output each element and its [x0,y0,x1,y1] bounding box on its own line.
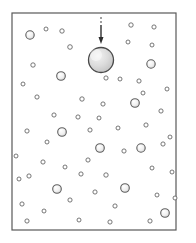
particle [20,202,24,206]
particle [126,40,130,44]
particle [141,91,145,95]
particle [44,27,48,31]
particle [93,190,97,194]
particle [77,218,81,222]
particle [63,165,67,169]
particle [27,174,31,178]
particle [161,142,165,146]
particle [31,63,35,67]
particle [96,144,105,153]
particle [148,219,152,223]
particle [129,23,133,27]
particle [14,154,18,158]
particle [122,149,126,153]
particle [35,95,39,99]
figure-root [0,0,196,243]
particle [137,79,141,83]
particle [155,193,159,197]
particle [80,97,84,101]
particle [137,144,145,152]
particle [25,219,29,223]
particle [161,209,170,218]
particle [52,113,56,117]
particle [104,173,108,177]
particle [131,99,140,108]
particle [101,102,105,106]
particle [17,177,21,181]
particle [150,43,154,47]
particle [79,172,83,176]
particle-dispersion-figure [0,0,196,243]
particle [45,140,49,144]
particle [25,129,29,133]
particle [41,160,45,164]
tracer-sphere [89,48,114,73]
particle [60,29,64,33]
particle [144,123,148,127]
particle [76,115,80,119]
particle [168,135,172,139]
particle [173,196,177,200]
particle [97,116,101,120]
particle [68,198,72,202]
particle [108,220,112,224]
particle [68,45,73,50]
particle [113,204,117,208]
particle [165,87,169,91]
particle [53,185,62,194]
particle [152,25,156,29]
particle [42,209,46,213]
particle [104,76,108,80]
particle [26,31,34,39]
particle [150,166,154,170]
particle [118,77,122,81]
particle [21,82,25,86]
particle [86,158,90,162]
particle [159,109,163,113]
particle [170,170,174,174]
particle [147,60,155,68]
particle [58,128,67,137]
particle [88,128,92,132]
tracer-sphere-highlight [90,49,102,61]
particle [121,184,130,193]
particle [116,126,120,130]
particle [57,72,66,81]
